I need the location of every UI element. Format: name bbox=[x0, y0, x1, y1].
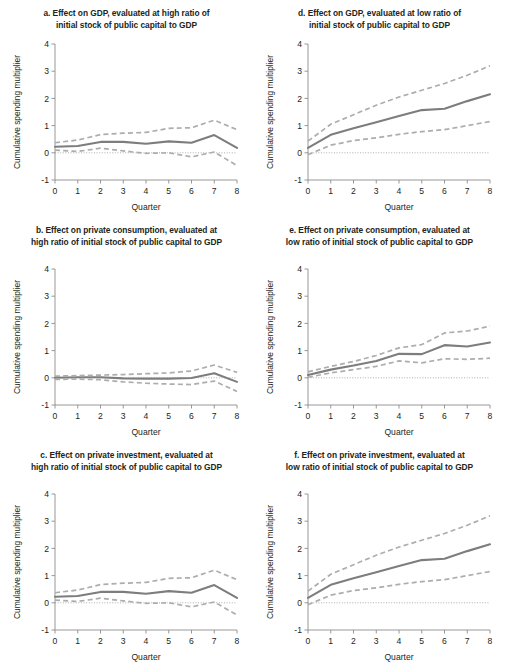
y-tick-label: 2 bbox=[297, 544, 302, 554]
series-line-confidence-band bbox=[308, 122, 490, 155]
y-tick-label: 4 bbox=[297, 39, 302, 49]
y-axis-title: Cumulative spending multiplier bbox=[265, 280, 275, 394]
y-tick-label: 3 bbox=[44, 66, 49, 76]
x-tick-label: 7 bbox=[465, 411, 470, 421]
x-tick-label: 7 bbox=[465, 636, 470, 646]
y-tick-label: 3 bbox=[297, 291, 302, 301]
series-line-confidence-band bbox=[308, 326, 490, 372]
plot-area-f: -101234012345678QuarterCumulative spendi… bbox=[253, 440, 506, 665]
x-axis-title: Quarter bbox=[131, 202, 160, 212]
x-axis-title: Quarter bbox=[384, 427, 413, 437]
y-tick-label: 3 bbox=[297, 66, 302, 76]
y-tick-label: 4 bbox=[297, 489, 302, 499]
y-axis-title: Cumulative spending multiplier bbox=[12, 505, 22, 619]
x-tick-label: 0 bbox=[53, 411, 58, 421]
x-tick-label: 0 bbox=[306, 186, 311, 196]
y-tick-label: 2 bbox=[44, 544, 49, 554]
x-tick-label: 2 bbox=[351, 411, 356, 421]
plot-svg-c: -101234012345678QuarterCumulative spendi… bbox=[0, 440, 253, 665]
x-tick-label: 3 bbox=[374, 636, 379, 646]
x-tick-label: 1 bbox=[328, 186, 333, 196]
y-tick-label: 2 bbox=[297, 319, 302, 329]
x-tick-label: 4 bbox=[397, 411, 402, 421]
series-line-mean bbox=[308, 94, 490, 148]
series-line-mean bbox=[55, 585, 237, 598]
plot-svg-a: -101234012345678QuarterCumulative spendi… bbox=[0, 0, 253, 215]
x-tick-label: 1 bbox=[75, 636, 80, 646]
x-tick-label: 1 bbox=[328, 411, 333, 421]
y-tick-label: 0 bbox=[297, 373, 302, 383]
x-tick-label: 0 bbox=[306, 636, 311, 646]
x-tick-label: 1 bbox=[75, 186, 80, 196]
chart-panel-a: a. Effect on GDP, evaluated at high rati… bbox=[0, 0, 253, 215]
x-tick-label: 8 bbox=[488, 636, 493, 646]
x-tick-label: 6 bbox=[442, 186, 447, 196]
series-line-confidence-band bbox=[55, 148, 237, 165]
y-tick-label: 1 bbox=[297, 346, 302, 356]
chart-panel-e: e. Effect on private consumption, evalua… bbox=[253, 215, 506, 440]
y-axis-title: Cumulative spending multiplier bbox=[265, 55, 275, 169]
y-tick-label: 4 bbox=[44, 489, 49, 499]
chart-panel-d: d. Effect on GDP, evaluated at low ratio… bbox=[253, 0, 506, 215]
x-tick-label: 2 bbox=[351, 186, 356, 196]
x-tick-label: 8 bbox=[488, 186, 493, 196]
x-tick-label: 6 bbox=[189, 186, 194, 196]
x-tick-label: 3 bbox=[121, 411, 126, 421]
x-tick-label: 5 bbox=[419, 636, 424, 646]
y-tick-label: 2 bbox=[44, 94, 49, 104]
series-line-mean bbox=[308, 544, 490, 598]
y-tick-label: 0 bbox=[297, 148, 302, 158]
chart-panel-f: f. Effect on private investment, evaluat… bbox=[253, 440, 506, 665]
y-tick-label: 0 bbox=[44, 373, 49, 383]
x-tick-label: 2 bbox=[98, 636, 103, 646]
series-line-confidence-band bbox=[308, 572, 490, 605]
x-tick-label: 2 bbox=[351, 636, 356, 646]
x-tick-label: 6 bbox=[189, 411, 194, 421]
plot-area-e: -101234012345678QuarterCumulative spendi… bbox=[253, 215, 506, 440]
y-tick-label: 3 bbox=[297, 516, 302, 526]
x-axis-title: Quarter bbox=[384, 202, 413, 212]
y-tick-label: 4 bbox=[44, 39, 49, 49]
y-tick-label: 1 bbox=[297, 121, 302, 131]
series-line-confidence-band bbox=[55, 379, 237, 391]
x-tick-label: 5 bbox=[166, 186, 171, 196]
y-tick-label: 4 bbox=[44, 264, 49, 274]
x-tick-label: 7 bbox=[212, 411, 217, 421]
y-tick-label: 4 bbox=[297, 264, 302, 274]
x-tick-label: 8 bbox=[235, 411, 240, 421]
x-tick-label: 8 bbox=[235, 636, 240, 646]
x-tick-label: 3 bbox=[121, 636, 126, 646]
y-tick-label: -1 bbox=[294, 175, 302, 185]
plot-area-b: -101234012345678QuarterCumulative spendi… bbox=[0, 215, 253, 440]
y-tick-label: 2 bbox=[44, 319, 49, 329]
y-tick-label: 1 bbox=[297, 571, 302, 581]
y-tick-label: 0 bbox=[44, 148, 49, 158]
x-tick-label: 4 bbox=[144, 636, 149, 646]
x-tick-label: 2 bbox=[98, 186, 103, 196]
x-axis-title: Quarter bbox=[131, 652, 160, 662]
y-axis-title: Cumulative spending multiplier bbox=[12, 55, 22, 169]
y-tick-label: -1 bbox=[41, 625, 49, 635]
chart-panel-b: b. Effect on private consumption, evalua… bbox=[0, 215, 253, 440]
x-tick-label: 4 bbox=[397, 636, 402, 646]
x-tick-label: 6 bbox=[442, 636, 447, 646]
y-tick-label: 0 bbox=[44, 598, 49, 608]
x-tick-label: 3 bbox=[374, 186, 379, 196]
x-tick-label: 4 bbox=[397, 186, 402, 196]
x-tick-label: 7 bbox=[465, 186, 470, 196]
series-line-confidence-band bbox=[308, 358, 490, 377]
x-tick-label: 3 bbox=[374, 411, 379, 421]
x-tick-label: 7 bbox=[212, 186, 217, 196]
x-tick-label: 6 bbox=[189, 636, 194, 646]
plot-area-a: -101234012345678QuarterCumulative spendi… bbox=[0, 0, 253, 215]
y-tick-label: 1 bbox=[44, 571, 49, 581]
y-axis-title: Cumulative spending multiplier bbox=[265, 505, 275, 619]
x-axis-title: Quarter bbox=[131, 427, 160, 437]
x-axis-title: Quarter bbox=[384, 652, 413, 662]
series-line-confidence-band bbox=[55, 570, 237, 593]
x-tick-label: 4 bbox=[144, 186, 149, 196]
series-line-confidence-band bbox=[55, 120, 237, 143]
x-tick-label: 8 bbox=[235, 186, 240, 196]
y-tick-label: -1 bbox=[41, 175, 49, 185]
x-tick-label: 5 bbox=[166, 411, 171, 421]
